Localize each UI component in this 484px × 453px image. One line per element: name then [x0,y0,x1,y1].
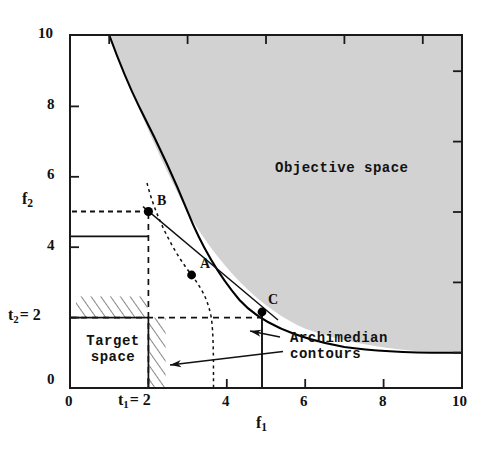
x-tick-0: 0 [65,393,73,410]
x-tick-8: 8 [379,393,387,410]
y-tick-4: 4 [47,237,55,254]
y-axis-subscript: 2 [27,197,33,209]
x-axis-title: f1 [256,414,267,433]
x-tick-t1-label: t1= 2 [118,391,151,410]
point-label-a: A [200,256,210,272]
objective-space-label: Objective space [275,160,409,176]
y-tick-0: 0 [47,371,55,388]
y-tick-10: 10 [38,25,53,42]
t1-subscript: 1 [123,398,128,410]
x-axis-subscript: 1 [261,421,267,433]
x-tick-4: 4 [222,393,230,410]
hatch-band-t1 [148,318,165,388]
target-space-line-1: Target [78,333,148,349]
data-point-c [258,308,267,317]
target-space-label: Target space [78,333,148,365]
x-tick-6: 6 [300,393,308,410]
archimedian-line-1: Archimedian [290,330,388,346]
arrow-to-tangent [250,331,280,337]
point-label-c: C [268,292,278,308]
t2-subscript: 2 [13,313,18,325]
y-tick-8: 8 [47,96,55,113]
archimedian-contours-label: Archimedian contours [290,330,388,362]
arrow-to-dotted [170,352,283,366]
data-point-b [144,207,153,216]
y-tick-t2-label: t2= 2 [8,306,41,325]
y-tick-6: 6 [47,166,55,183]
x-tick-10: 10 [452,393,467,410]
archimedian-line-2: contours [290,346,388,362]
y-axis-title: f2 [22,190,33,209]
data-point-a [187,271,196,280]
t2-value: = 2 [20,306,41,323]
archimedian-target-space-figure [0,0,484,453]
hatch-band-t2 [76,296,147,317]
t1-value: = 2 [130,391,151,408]
target-space-line-2: space [78,349,148,365]
point-label-b: B [157,193,166,209]
